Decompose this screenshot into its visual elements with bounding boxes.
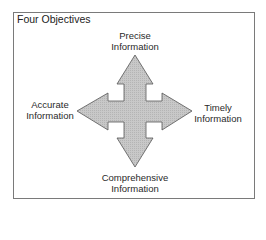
objective-left-label: Accurate Information bbox=[26, 99, 74, 121]
objective-left-line2: Information bbox=[26, 110, 74, 121]
objective-bottom-line2: Information bbox=[102, 183, 169, 194]
objective-right-line1: Timely bbox=[194, 102, 242, 113]
objective-top-label: Precise Information bbox=[111, 30, 159, 52]
objective-top-line2: Information bbox=[111, 41, 159, 52]
objective-right-line2: Information bbox=[194, 113, 242, 124]
objective-left-line1: Accurate bbox=[26, 99, 74, 110]
objective-bottom-label: Comprehensive Information bbox=[102, 172, 169, 194]
four-way-arrow-shape bbox=[77, 55, 192, 167]
objective-top-line1: Precise bbox=[111, 30, 159, 41]
objective-right-label: Timely Information bbox=[194, 102, 242, 124]
objective-bottom-line1: Comprehensive bbox=[102, 172, 169, 183]
